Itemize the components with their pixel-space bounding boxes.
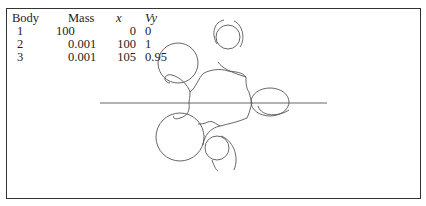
orbit-trajectory [156,20,289,171]
orbit-plot [0,0,426,206]
